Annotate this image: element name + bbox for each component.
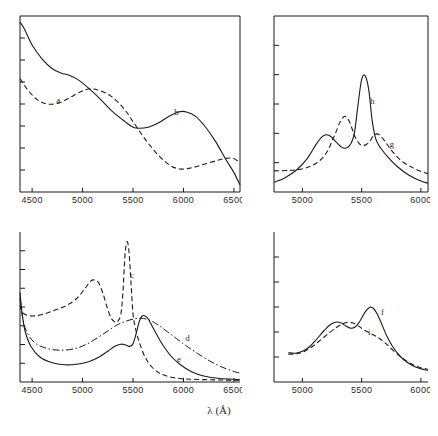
x-tick-label: 5000	[72, 385, 93, 395]
panel-top-right-plot: 500055006000hg	[266, 12, 430, 210]
panel-bottom-right-plot: 500055006000fi	[266, 228, 430, 400]
x-tick-label: 4500	[21, 195, 42, 205]
curve-h	[274, 75, 428, 183]
curve-g	[274, 116, 428, 173]
x-tick-label: 5500	[351, 385, 372, 395]
curve-c	[20, 242, 240, 381]
x-tick-label: 5000	[292, 385, 313, 395]
x-tick-label: 5500	[122, 385, 143, 395]
panel-bottom-left: 45005000550060006500cde	[14, 228, 242, 400]
curve-b	[20, 22, 240, 185]
x-tick-label: 6000	[173, 385, 194, 395]
curve-label-f: f	[381, 307, 384, 317]
panel-bottom-left-plot: 45005000550060006500cde	[14, 228, 242, 400]
curve-label-b: b	[174, 107, 179, 117]
figure-container: 45005000550060006500ab 500055006000hg 45…	[0, 0, 438, 436]
panel-top-right: 500055006000hg	[266, 12, 430, 210]
curve-e	[20, 293, 240, 380]
curve-label-g: g	[390, 139, 395, 149]
curve-label-e: e	[177, 354, 181, 364]
curve-a	[20, 78, 240, 169]
curve-label-i: i	[368, 327, 371, 337]
x-tick-label: 6000	[410, 385, 430, 395]
x-tick-label: 5500	[351, 195, 372, 205]
panel-top-left: 45005000550060006500ab	[14, 12, 242, 210]
x-tick-label: 4500	[21, 385, 42, 395]
panel-top-left-plot: 45005000550060006500ab	[14, 12, 242, 210]
x-tick-label: 6000	[173, 195, 194, 205]
curve-d	[20, 298, 240, 373]
x-tick-label: 5500	[122, 195, 143, 205]
curve-label-h: h	[370, 96, 375, 106]
x-tick-label: 6000	[410, 195, 430, 205]
x-tick-label: 5000	[72, 195, 93, 205]
x-axis-label: λ (Å)	[0, 404, 438, 416]
curve-label-d: d	[185, 333, 190, 343]
panel-bottom-right: 500055006000fi	[266, 228, 430, 400]
curve-label-c: c	[130, 270, 134, 280]
x-tick-label: 5000	[292, 195, 313, 205]
x-tick-label: 6500	[223, 195, 242, 205]
x-tick-label: 6500	[223, 385, 242, 395]
curve-label-a: a	[56, 95, 60, 105]
